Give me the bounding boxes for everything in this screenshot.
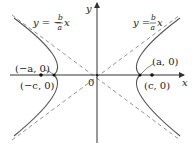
right-vertex-label: (a, 0): [152, 56, 179, 67]
hyperbola-left-branch: [14, 18, 58, 136]
y-axis-label: y: [85, 3, 92, 14]
right-focus-label: (c, 0): [144, 80, 170, 91]
svg-text:y =: y =: [132, 17, 150, 28]
svg-text:x: x: [157, 17, 163, 28]
asymptote-right-label: y = b a x: [132, 13, 163, 32]
hyperbola-diagram: y x 0 y = − b a x y = b a x (−a, 0) (−c,…: [0, 0, 195, 144]
left-focus-label: (−c, 0): [20, 80, 55, 91]
left-vertex-label: (−a, 0): [15, 63, 50, 74]
asymptote-left-label: y = − b a x: [32, 13, 70, 32]
svg-text:a: a: [151, 23, 155, 32]
svg-text:b: b: [58, 13, 63, 22]
svg-text:b: b: [151, 13, 156, 22]
svg-text:a: a: [58, 23, 62, 32]
x-axis-label: x: [182, 77, 188, 88]
origin-dot: [96, 74, 98, 76]
hyperbola-right-branch: [136, 18, 180, 136]
origin-label: 0: [88, 77, 94, 88]
svg-text:x: x: [64, 17, 70, 28]
right-focus-dot: [150, 73, 154, 77]
